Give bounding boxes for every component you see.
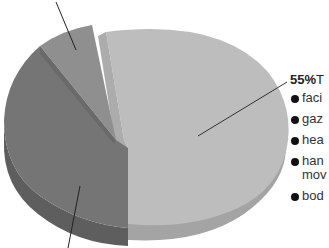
bullet-icon [291,158,299,166]
legend-title-text: T [316,72,324,87]
legend-item: bod [291,189,329,203]
legend: 55%T faci gaz hea han mov bod [291,72,329,210]
bullet-icon [291,137,299,145]
bullet-icon [291,193,299,201]
legend-item: hea [291,133,329,147]
bullet-icon [291,95,299,103]
legend-title: 55%T [290,72,329,87]
legend-item: faci [291,91,329,105]
legend-item-label: bod [302,188,324,203]
legend-item-label: faci [302,90,322,105]
legend-item-label-line2: mov [302,168,329,182]
legend-item-label: hea [302,132,324,147]
legend-item-label: han [302,153,324,168]
legend-title-percent: 55% [290,72,316,87]
legend-item-label: gaz [302,111,323,126]
bullet-icon [291,116,299,124]
legend-item: gaz [291,112,329,126]
legend-item: han mov [291,154,329,182]
pie-chart [0,0,329,248]
